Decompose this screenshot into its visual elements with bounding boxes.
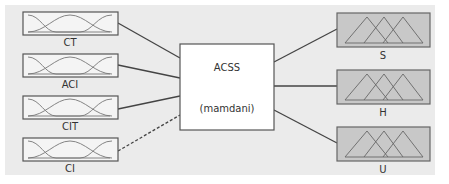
input-label: CIT (62, 121, 79, 132)
input-label: ACI (62, 79, 79, 90)
system-method: (mamdani) (199, 103, 254, 114)
output-label: S (380, 50, 386, 61)
connector-ct (118, 23, 180, 58)
connector-aci (118, 65, 180, 78)
connector-cit (118, 96, 180, 109)
connector-u (274, 110, 337, 143)
input-aci: ACI (23, 54, 118, 90)
system-box: ACSS (mamdani) (180, 44, 274, 130)
output-label: U (379, 164, 386, 175)
input-label: CT (63, 37, 77, 48)
connector-s (274, 29, 337, 62)
output-u: U (337, 127, 430, 175)
input-ct: CT (23, 12, 118, 48)
output-label: H (379, 107, 387, 118)
system-name: ACSS (214, 62, 240, 73)
output-s: S (337, 13, 430, 61)
connector-ci (118, 115, 180, 151)
input-ci: CI (23, 138, 118, 174)
input-cit: CIT (23, 96, 118, 132)
input-label: CI (65, 163, 75, 174)
output-h: H (337, 70, 430, 118)
fis-diagram: CT ACI CIT CI ACSS (mamdani) (0, 0, 449, 184)
